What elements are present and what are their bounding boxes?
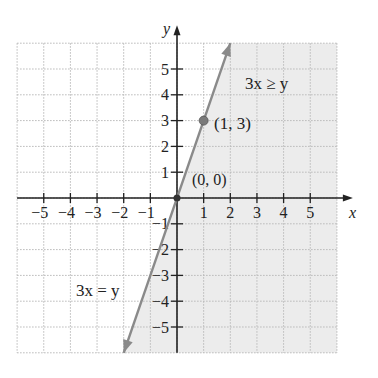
y-axis-label: y	[161, 20, 171, 38]
point-label-origin: (0, 0)	[192, 171, 227, 189]
boundary-label: 3x = y	[76, 281, 120, 300]
x-tick-label: 1	[200, 204, 208, 221]
y-tick-label: 2	[161, 138, 169, 155]
inequality-graph: −5−4−3−2−112345−5−4−3−2−112345 x y 3x ≥ …	[0, 0, 378, 378]
x-tick-label: −3	[85, 204, 102, 221]
point-1-3	[199, 116, 208, 125]
y-tick-label: 1	[161, 164, 169, 181]
y-axis-arrow-icon	[174, 25, 181, 35]
y-tick-label: 3	[161, 112, 169, 129]
y-tick-label: 4	[161, 86, 169, 103]
x-tick-label: 5	[306, 204, 314, 221]
y-tick-label: −5	[152, 319, 169, 336]
x-axis-arrow-icon	[343, 195, 353, 202]
y-tick-label: 5	[161, 61, 169, 78]
x-tick-label: 4	[280, 204, 288, 221]
x-axis-label: x	[348, 204, 356, 221]
x-tick-label: −2	[111, 204, 128, 221]
inequality-label: 3x ≥ y	[245, 74, 289, 93]
point-label-1-3: (1, 3)	[214, 114, 251, 133]
x-tick-label: 2	[226, 204, 234, 221]
x-tick-label: −5	[31, 204, 48, 221]
y-tick-label: −4	[152, 293, 169, 310]
x-tick-label: 3	[253, 204, 261, 221]
x-tick-label: −4	[58, 204, 75, 221]
line-arrow-icon	[221, 43, 230, 57]
y-tick-label: −3	[152, 267, 169, 284]
point-origin	[174, 195, 181, 202]
